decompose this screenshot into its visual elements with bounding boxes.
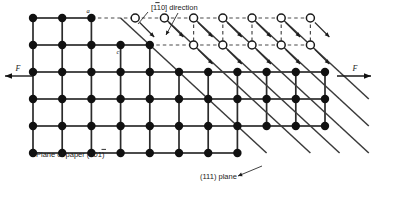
lattice-atom-filled[interactable] [58, 122, 66, 130]
lattice-atom-filled[interactable] [175, 149, 183, 157]
lattice-atom-filled[interactable] [29, 68, 37, 76]
direction-label[interactable]: [110] direction [151, 3, 198, 12]
lattice-atom-filled[interactable] [321, 95, 329, 103]
lattice-atom-filled[interactable] [204, 95, 212, 103]
lattice-atom-filled[interactable] [146, 122, 154, 130]
slip-plane-trace[interactable] [150, 45, 179, 72]
lattice-atom-filled[interactable] [292, 68, 300, 76]
lattice-atom-open[interactable] [219, 41, 227, 49]
lattice-atom-filled[interactable] [146, 68, 154, 76]
lattice-atom-open[interactable] [306, 41, 314, 49]
lattice-atom-filled[interactable] [175, 95, 183, 103]
lattice-atom-filled[interactable] [204, 122, 212, 130]
lattice-atom-filled[interactable] [116, 68, 124, 76]
lattice-atom-open[interactable] [248, 41, 256, 49]
slip-plane-trace[interactable] [281, 18, 310, 45]
lattice-atom-filled[interactable] [29, 41, 37, 49]
lattice-atom-open[interactable] [219, 14, 227, 22]
lattice-atom-filled[interactable] [204, 68, 212, 76]
slip-plane-trace[interactable] [237, 126, 266, 153]
lattice-atom-filled[interactable] [58, 41, 66, 49]
lattice-atom-filled[interactable] [233, 122, 241, 130]
force-arrow-left-head[interactable] [5, 73, 12, 79]
lattice-atom-filled[interactable] [87, 122, 95, 130]
lattice-atom-filled[interactable] [87, 41, 95, 49]
lattice-atom-filled[interactable] [58, 14, 66, 22]
slip-plane-trace[interactable] [208, 99, 237, 126]
slip-plane-trace[interactable] [252, 18, 281, 45]
slip-plane-trace[interactable] [194, 18, 223, 45]
lattice-atom-filled[interactable] [146, 41, 154, 49]
lattice-atom-open[interactable] [248, 14, 256, 22]
lattice-atom-filled[interactable] [116, 95, 124, 103]
lattice-atom-filled[interactable] [146, 95, 154, 103]
lattice-atom-filled[interactable] [262, 68, 270, 76]
slip-plane-trace[interactable] [340, 126, 369, 153]
lattice-atom-filled[interactable] [58, 95, 66, 103]
lattice-atom-filled[interactable] [116, 149, 124, 157]
point-label-c[interactable]: c [117, 48, 120, 55]
lattice-atom-filled[interactable] [116, 122, 124, 130]
lattice-atom-filled[interactable] [29, 14, 37, 22]
lattice-atom-filled[interactable] [204, 149, 212, 157]
plane-of-paper-label[interactable]: Plane of paper (001) [36, 150, 105, 159]
force-arrow-right-head[interactable] [364, 73, 371, 79]
lattice-atom-filled[interactable] [29, 95, 37, 103]
force-label-left[interactable]: F [15, 64, 21, 73]
lattice-atom-filled[interactable] [58, 68, 66, 76]
lattice-atom-open[interactable] [306, 14, 314, 22]
slip-plane-trace[interactable] [223, 18, 252, 45]
point-label-a[interactable]: a [86, 7, 89, 14]
lattice-atom-filled[interactable] [321, 122, 329, 130]
lattice-atom-filled[interactable] [87, 95, 95, 103]
lattice-atom-open[interactable] [277, 41, 285, 49]
force-label-right[interactable]: F [352, 64, 358, 73]
lattice-atom-filled[interactable] [321, 68, 329, 76]
lattice-atom-open[interactable] [160, 14, 168, 22]
lattice-atom-filled[interactable] [29, 122, 37, 130]
lattice-atom-filled[interactable] [233, 95, 241, 103]
lattice-atom-filled[interactable] [87, 68, 95, 76]
lattice-atom-filled[interactable] [175, 122, 183, 130]
lattice-slip-diagram: FFac[110] directionPlane of paper (001)(… [0, 0, 394, 209]
figure-canvas: FFac[110] directionPlane of paper (001)(… [0, 0, 394, 209]
slip-plane-trace[interactable] [340, 99, 369, 126]
lattice-atom-open[interactable] [131, 14, 139, 22]
slip-plane-trace[interactable] [179, 72, 208, 99]
lattice-atom-filled[interactable] [87, 14, 95, 22]
lattice-atom-filled[interactable] [292, 122, 300, 130]
lattice-atom-filled[interactable] [233, 68, 241, 76]
lattice-atom-filled[interactable] [175, 68, 183, 76]
lattice-atom-filled[interactable] [262, 95, 270, 103]
lattice-atom-open[interactable] [277, 14, 285, 22]
slip-plane-trace[interactable] [164, 18, 193, 45]
lattice-atom-filled[interactable] [233, 149, 241, 157]
slip-plane-label[interactable]: (111) plane [200, 172, 237, 181]
lattice-atom-open[interactable] [190, 41, 198, 49]
lattice-atom-open[interactable] [190, 14, 198, 22]
lattice-atom-filled[interactable] [262, 122, 270, 130]
lattice-atom-filled[interactable] [292, 95, 300, 103]
lattice-atom-filled[interactable] [146, 149, 154, 157]
